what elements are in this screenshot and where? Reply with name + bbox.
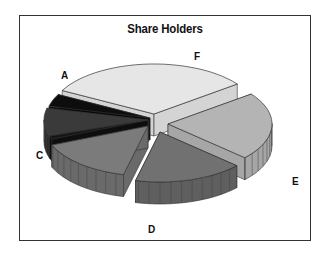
label-c: C — [36, 150, 43, 161]
label-a: A — [61, 70, 68, 81]
pie-chart — [0, 0, 327, 254]
label-e: E — [292, 176, 299, 187]
label-d: D — [148, 224, 155, 235]
label-f: F — [194, 51, 200, 62]
